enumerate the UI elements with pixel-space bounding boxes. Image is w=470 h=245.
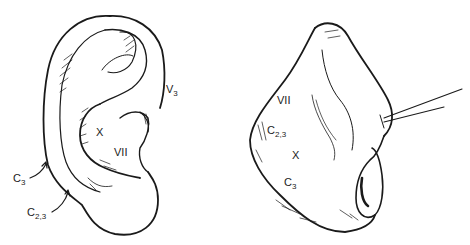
nose-label-c3: C3 [284,177,296,191]
ear-label-vii: VII [114,147,127,158]
nose-label-c23: C2,3 [267,125,286,139]
nose-illustration [0,0,470,245]
anatomy-figure: V3 X VII C3 C2,3 VII C2,3 X C3 [0,0,470,245]
ear-label-x: X [96,127,103,138]
ear-label-c3: C3 [13,173,25,187]
ear-label-c23: C2,3 [27,207,46,221]
nose-label-x: X [292,150,299,161]
nose-label-vii: VII [277,95,290,106]
ear-label-v3: V3 [166,84,178,98]
